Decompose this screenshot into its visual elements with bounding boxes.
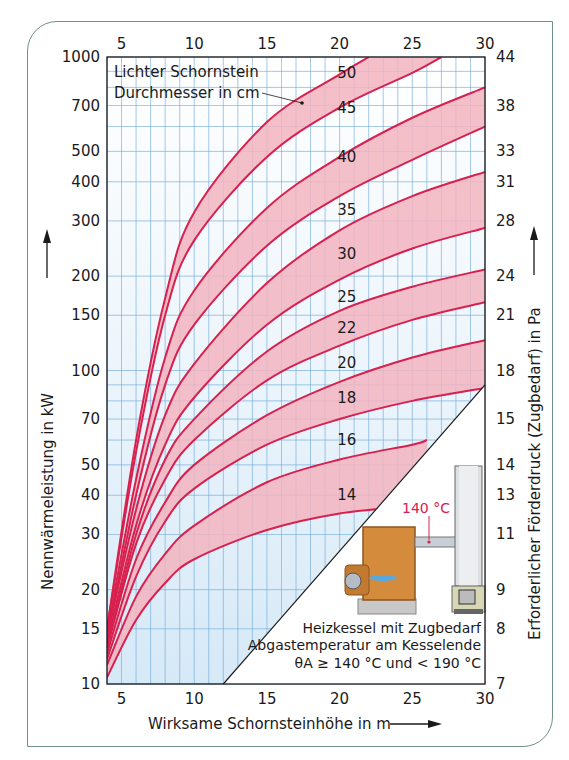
chimney-footing [454,609,483,614]
diameter-label: 14 [337,486,356,504]
y2-tick-label: 9 [496,581,506,599]
diameter-label: 20 [337,354,356,372]
x-tick-label-bottom: 20 [330,690,349,708]
y2-tick-label: 28 [496,212,515,230]
y2-tick-label: 13 [496,486,515,504]
temp-point-dot [427,540,430,543]
diameter-label: 40 [337,148,356,166]
diameter-label: 22 [337,319,356,337]
y2-tick-label: 38 [496,97,515,115]
x-tick-label-bottom: 30 [475,690,494,708]
y2-tick-label: 11 [496,525,515,543]
diameter-label: 16 [337,431,356,449]
temp-label: 140 °C [402,500,450,516]
y2-tick-label: 8 [496,620,506,638]
y-tick-label: 700 [71,97,100,115]
y-tick-label: 50 [81,456,100,474]
y-tick-label: 40 [81,486,100,504]
x-tick-label-bottom: 10 [185,690,204,708]
y2-tick-label: 31 [496,173,515,191]
legend-title-line: Durchmesser in cm [114,84,260,102]
diameter-label: 18 [337,389,356,407]
x-axis-label: Wirksame Schornsteinhöhe in m [148,715,391,733]
inset-caption-line: θA ≥ 140 °C und < 190 °C [295,655,482,671]
y-axis-label: Nennwärmeleistung in kW [39,393,57,590]
x-tick-label-top: 5 [117,35,127,53]
diameter-label: 30 [337,245,356,263]
y2-tick-label: 15 [496,410,515,428]
x-axis-arrow-icon [428,720,442,728]
y-tick-label: 300 [71,212,100,230]
x-tick-label-top: 15 [257,35,276,53]
y-tick-label: 10 [81,675,100,693]
y-tick-label: 500 [71,142,100,160]
y-tick-label: 200 [71,267,100,285]
x-tick-label-bottom: 15 [257,690,276,708]
y-tick-label: 150 [71,306,100,324]
x-tick-label-top: 10 [185,35,204,53]
chart: 140 °CHeizkessel mit ZugbedarfAbgastempe… [0,0,569,760]
y2-tick-label: 18 [496,362,515,380]
y-tick-label: 400 [71,173,100,191]
diameter-label: 35 [337,201,356,219]
y2-tick-label: 33 [496,142,515,160]
y2-tick-label: 7 [496,675,506,693]
diameter-label: 25 [337,288,356,306]
y2-axis-label: Erforderlicher Förderdruck (Zugbedarf) i… [526,307,544,640]
x-tick-label-top: 30 [475,35,494,53]
cleanout-door-icon [459,590,475,604]
x-tick-label-bottom: 25 [403,690,422,708]
y-tick-label: 1000 [62,48,100,66]
chimney-inner [459,466,478,586]
y2-tick-label: 44 [496,48,515,66]
flame-icon [369,575,397,581]
y-tick-label: 100 [71,362,100,380]
y2-axis-arrow-icon [530,226,538,240]
y2-tick-label: 21 [496,306,515,324]
inset-caption-line: Heizkessel mit Zugbedarf [302,620,482,636]
y2-tick-label: 24 [496,267,515,285]
boiler-base [358,599,416,614]
legend-title-line: Lichter Schornstein [114,63,259,81]
burner-fan-icon [345,573,361,589]
y-tick-label: 20 [81,581,100,599]
boiler-body [363,527,415,600]
legend-pointer-dot [300,101,304,105]
x-tick-label-top: 25 [403,35,422,53]
diameter-label: 45 [337,99,356,117]
y2-tick-label: 14 [496,456,515,474]
y-tick-label: 30 [81,525,100,543]
flue-pipe [415,537,459,547]
x-tick-label-bottom: 5 [117,690,127,708]
y-axis-arrow-icon [43,229,51,243]
y-tick-label: 15 [81,620,100,638]
diameter-label: 50 [337,64,356,82]
x-tick-label-top: 20 [330,35,349,53]
y-tick-label: 70 [81,410,100,428]
inset-caption-line: Abgastemperatur am Kesselende [248,637,481,653]
